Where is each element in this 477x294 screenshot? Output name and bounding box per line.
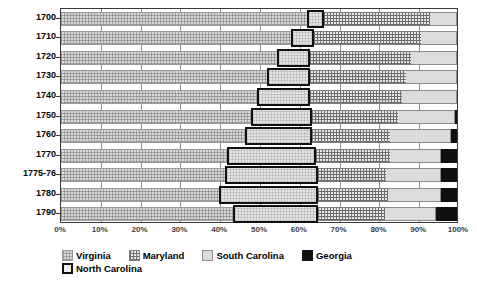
legend-item-maryland[interactable]: Maryland (129, 250, 185, 261)
legend-label-south-carolina: South Carolina (216, 250, 284, 261)
bar-segment-virginia (61, 149, 227, 163)
legend-label-virginia: Virginia (76, 250, 111, 261)
bar-segment-virginia (61, 207, 233, 221)
x-axis-label: 40% (211, 225, 227, 234)
bar-row (61, 207, 457, 221)
y-axis-tick (56, 37, 61, 38)
bar-segment-south_carolina (390, 129, 451, 143)
y-axis-tick (56, 174, 61, 175)
y-axis-label: 1780 (36, 188, 56, 198)
legend-item-georgia[interactable]: Georgia (302, 250, 352, 261)
bar-segment-north_carolina (219, 186, 318, 204)
y-axis-label: 1770 (36, 149, 56, 159)
bar-segment-virginia (61, 12, 307, 26)
y-axis-tick (56, 135, 61, 136)
bar-segment-south_carolina (390, 149, 441, 163)
y-axis-tick (56, 155, 61, 156)
y-axis-tick (56, 116, 61, 117)
bar-segment-maryland (314, 31, 421, 45)
bar-segment-north_carolina (227, 147, 316, 165)
bar-segment-north_carolina (307, 10, 324, 28)
legend-swatch-maryland (129, 250, 140, 261)
bar-segment-maryland (312, 110, 397, 124)
bar-segment-virginia (61, 110, 251, 124)
y-axis-label: 1720 (36, 51, 56, 61)
bar-segment-virginia (61, 90, 257, 104)
bar-segment-north_carolina (245, 127, 312, 145)
legend-row-2: North Carolina (62, 263, 422, 274)
bar-segment-south_carolina (402, 90, 457, 104)
bar-segment-virginia (61, 129, 245, 143)
legend-row-1: Virginia Maryland South Carolina Georgia (62, 250, 422, 261)
plot-area (60, 8, 458, 223)
y-axis-tick (56, 18, 61, 19)
bar-segment-south_carolina (385, 207, 436, 221)
x-axis-label: 80% (370, 225, 386, 234)
bar-segment-south_carolina (406, 70, 457, 84)
y-axis-label: 1775-76 (23, 168, 56, 178)
legend-item-north-carolina[interactable]: North Carolina (62, 263, 142, 274)
bar-segment-north_carolina (225, 166, 318, 184)
legend-swatch-virginia (62, 250, 73, 261)
bar-segment-georgia (441, 168, 457, 182)
legend-label-georgia: Georgia (316, 250, 352, 261)
bar-segment-north_carolina (267, 68, 311, 86)
y-axis-label: 1730 (36, 70, 56, 80)
y-axis-label: 1790 (36, 207, 56, 217)
y-axis-tick (56, 76, 61, 77)
bar-row (61, 168, 457, 182)
legend-label-north-carolina: North Carolina (76, 263, 142, 274)
bar-segment-georgia (451, 129, 457, 143)
bar-segment-maryland (310, 51, 411, 65)
bar-segment-north_carolina (257, 88, 310, 106)
y-axis-tick (56, 213, 61, 214)
x-axis: 0%10%20%30%40%50%60%70%80%90%100% (0, 225, 477, 239)
bar-row (61, 149, 457, 163)
bar-segment-virginia (61, 31, 291, 45)
bar-segment-georgia (436, 207, 457, 221)
legend-swatch-georgia (302, 250, 313, 261)
x-axis-label: 60% (291, 225, 307, 234)
bar-segment-maryland (310, 70, 405, 84)
bar-row (61, 90, 457, 104)
bar-segment-south_carolina (411, 51, 457, 65)
bar-segment-north_carolina (251, 108, 312, 126)
bar-segment-north_carolina (233, 205, 317, 223)
legend-item-virginia[interactable]: Virginia (62, 250, 111, 261)
bar-segment-virginia (61, 188, 219, 202)
bar-segment-north_carolina (291, 29, 315, 47)
bar-segment-virginia (61, 70, 267, 84)
y-axis-tick (56, 96, 61, 97)
x-axis-label: 30% (171, 225, 187, 234)
bar-segment-south_carolina (388, 188, 441, 202)
bar-segment-maryland (316, 149, 389, 163)
bar-segment-maryland (310, 90, 401, 104)
legend-swatch-south-carolina (202, 250, 213, 261)
bar-segment-virginia (61, 168, 225, 182)
bar-segment-south_carolina (430, 12, 457, 26)
bar-row (61, 31, 457, 45)
y-axis-tick (56, 57, 61, 58)
bar-row (61, 188, 457, 202)
x-axis-label: 20% (132, 225, 148, 234)
bar-segment-georgia (441, 188, 457, 202)
x-axis-label: 70% (331, 225, 347, 234)
x-axis-label: 10% (92, 225, 108, 234)
bar-segment-maryland (318, 188, 387, 202)
y-axis: 170017101720173017401750176017701775-761… (0, 8, 56, 223)
y-axis-label: 1740 (36, 90, 56, 100)
legend-item-south-carolina[interactable]: South Carolina (202, 250, 284, 261)
x-axis-label: 100% (448, 225, 468, 234)
legend-label-maryland: Maryland (143, 250, 185, 261)
y-axis-label: 1710 (36, 31, 56, 41)
bar-segment-georgia (441, 149, 457, 163)
bar-segment-south_carolina (386, 168, 441, 182)
y-axis-tick (56, 194, 61, 195)
bar-segment-maryland (318, 168, 385, 182)
x-axis-label: 0% (54, 225, 66, 234)
bar-segment-virginia (61, 51, 277, 65)
x-axis-label: 50% (251, 225, 267, 234)
bar-row (61, 70, 457, 84)
bar-segment-maryland (312, 129, 389, 143)
y-axis-label: 1760 (36, 129, 56, 139)
